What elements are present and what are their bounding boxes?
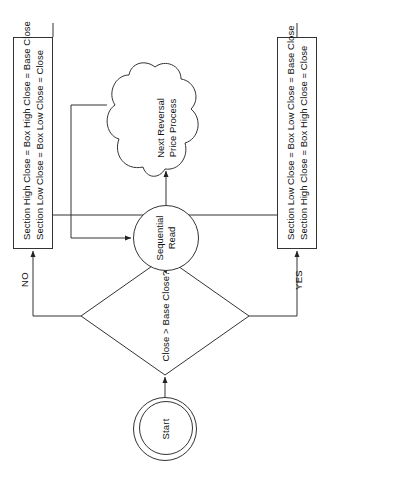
sequential-read-line2: Read — [166, 227, 178, 250]
flowchart-stage: Start Close > Base Close? Section High C… — [0, 7, 349, 467]
decision-label: Close > Base Close? — [81, 257, 249, 375]
figure-caption: Figure 2.3a Three–Price Break Constructi… — [362, 469, 388, 477]
process-yes-line1: Section Low Close = Box Low Close = Base… — [284, 46, 297, 240]
flowchart-canvas: Start Close > Base Close? Section High C… — [0, 6, 370, 468]
next-process-cloud: Next Reversal Price Process — [111, 67, 223, 189]
figure-root: Start Close > Base Close? Section High C… — [0, 0, 394, 477]
decision-node: Close > Base Close? — [81, 257, 249, 375]
start-terminator: Start — [133, 397, 197, 461]
process-no-box: Section High Close = Box High Close = Ba… — [13, 37, 53, 249]
edge-label-no: NO — [19, 272, 30, 287]
next-process-line1: Next Reversal — [155, 98, 167, 158]
sequential-read-line1: Sequential — [154, 216, 166, 261]
sequential-read-node: Sequential Read — [133, 205, 199, 271]
process-yes-line2: Section High Close = Box High Close = Cl… — [297, 46, 310, 240]
process-no-line2: Section Low Close = Box Low Close = Clos… — [33, 46, 46, 240]
next-process-label: Next Reversal Price Process — [111, 67, 223, 189]
process-no-line1: Section High Close = Box High Close = Ba… — [20, 46, 33, 240]
process-yes-box: Section Low Close = Box Low Close = Base… — [277, 37, 317, 249]
edge-label-yes: YES — [293, 270, 304, 290]
sequential-read-label: Sequential Read — [134, 206, 198, 270]
start-label: Start — [134, 398, 196, 460]
next-process-line2: Price Process — [167, 99, 179, 158]
